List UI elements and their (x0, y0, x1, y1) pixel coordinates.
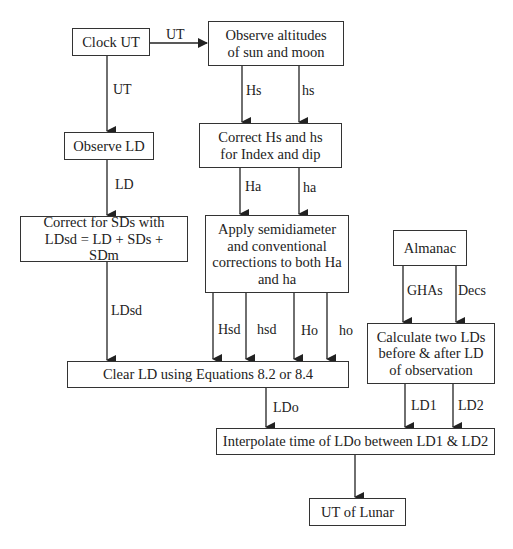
edge-label-hsd-lower: hsd (257, 323, 276, 337)
observe-ld-label: Observe LD (73, 138, 144, 155)
clear-ld-label: Clear LD using Equations 8.2 or 8.4 (103, 366, 313, 383)
calculate-lds-box: Calculate two LDs before & after LD of o… (367, 323, 495, 384)
correct-sd-box: Correct for SDs with LDsd = LD + SDs + S… (20, 216, 188, 262)
almanac-label: Almanac (404, 240, 456, 257)
apply-semidiameter-label: Apply semidiameter and conventional corr… (212, 221, 342, 287)
edge-label-ghas: GHAs (407, 284, 443, 298)
ut-of-lunar-label: UT of Lunar (321, 504, 394, 521)
edge-label-decs: Decs (458, 284, 486, 298)
edge-label-ldo: LDo (273, 401, 299, 415)
almanac-box: Almanac (393, 230, 467, 266)
edge-label-ld: LD (115, 178, 134, 192)
interpolate-label: Interpolate time of LDo between LD1 & LD… (223, 433, 488, 450)
clock-ut-box: Clock UT (72, 28, 150, 56)
correct-sd-label: Correct for SDs with LDsd = LD + SDs + S… (29, 214, 179, 264)
edge-label-ldsd: LDsd (111, 304, 142, 318)
edge-label-ut-right: UT (166, 28, 185, 42)
edge-label-ld1: LD1 (411, 399, 437, 413)
edge-label-ho-upper: Ho (301, 324, 318, 338)
clear-ld-box: Clear LD using Equations 8.2 or 8.4 (67, 361, 349, 388)
clock-ut-label: Clock UT (82, 34, 140, 51)
edge-label-ha-lower: ha (303, 181, 316, 195)
observe-altitudes-box: Observe altitudes of sun and moon (208, 21, 344, 66)
calculate-lds-label: Calculate two LDs before & after LD of o… (376, 329, 486, 379)
edge-label-ha-upper: Ha (245, 180, 261, 194)
interpolate-box: Interpolate time of LDo between LD1 & LD… (216, 428, 495, 455)
apply-semidiameter-box: Apply semidiameter and conventional corr… (205, 215, 349, 293)
correct-hs-box: Correct Hs and hs for Index and dip (199, 123, 342, 168)
edge-label-hs-lower: hs (302, 84, 314, 98)
correct-hs-label: Correct Hs and hs for Index and dip (214, 129, 327, 162)
observe-altitudes-label: Observe altitudes of sun and moon (221, 27, 331, 60)
ut-of-lunar-box: UT of Lunar (309, 498, 406, 526)
edge-label-ho-lower: ho (339, 324, 353, 338)
edge-label-ld2: LD2 (458, 399, 484, 413)
observe-ld-box: Observe LD (64, 132, 154, 160)
edge-label-hs-upper: Hs (246, 84, 262, 98)
edge-label-ut-down: UT (113, 83, 132, 97)
edge-label-hsd-upper: Hsd (218, 323, 241, 337)
